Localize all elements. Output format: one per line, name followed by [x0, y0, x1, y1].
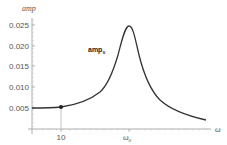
- series-label: amps: [88, 46, 105, 55]
- y-axis-title: amp: [22, 4, 36, 13]
- y-tick-labels: 0.025 0.020 0.015 0.010 0.005: [9, 21, 35, 113]
- y-tick-label: 0.010: [9, 83, 30, 92]
- y-tick-label: 0.020: [9, 42, 30, 51]
- y-tick-label: 0.025: [9, 21, 30, 30]
- data-point-marker: [59, 105, 63, 109]
- amp-curve: [32, 26, 206, 120]
- x-tick-label-10: 10: [57, 133, 66, 142]
- x-axis-title: ω: [215, 125, 221, 134]
- x-tick-label-omega0: ω0: [123, 133, 132, 143]
- y-tick-label: 0.005: [9, 104, 30, 113]
- y-tick-label: 0.015: [9, 62, 30, 71]
- resonance-chart: 0.025 0.020 0.015 0.010 0.005 amp ω 10 ω…: [0, 0, 227, 145]
